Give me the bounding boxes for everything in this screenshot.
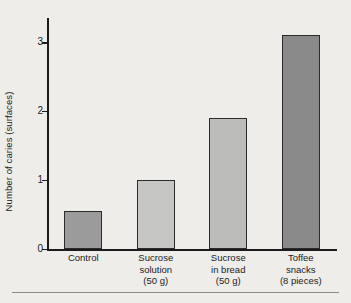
bar-4[interactable] [282,35,320,249]
category-label-3: Sucrosein bread(50 g) [192,252,265,287]
y-tick-label: 1 [37,173,43,186]
x-axis-spine [47,249,337,251]
category-label-line: in bread [192,264,265,276]
category-label-line: solution [120,264,193,276]
bar-2[interactable] [137,180,175,249]
bar-3[interactable] [209,118,247,249]
bottom-divider [12,292,339,293]
category-label-line: Control [47,252,120,264]
category-label-4: Toffeesnacks(8 pieces) [265,252,338,287]
bar-1[interactable] [64,211,102,249]
y-axis-label-text: Number of caries (surfaces) [3,92,14,212]
chart-figure: Number of caries (surfaces) 0123 Control… [0,0,351,303]
category-label-line: Sucrose [192,252,265,264]
plot-area: 0123 [47,18,337,249]
y-tick-label: 3 [37,35,43,48]
category-label-2: Sucrosesolution(50 g) [120,252,193,287]
category-label-line: (8 pieces) [265,275,338,287]
category-label-line: (50 g) [192,275,265,287]
category-label-1: Control [47,252,120,264]
category-label-line: Toffee [265,252,338,264]
y-tick-label: 0 [37,242,43,255]
category-label-line: Sucrose [120,252,193,264]
category-label-line: snacks [265,264,338,276]
y-axis-spine [47,18,49,249]
category-label-line: (50 g) [120,275,193,287]
y-tick-label: 2 [37,104,43,117]
